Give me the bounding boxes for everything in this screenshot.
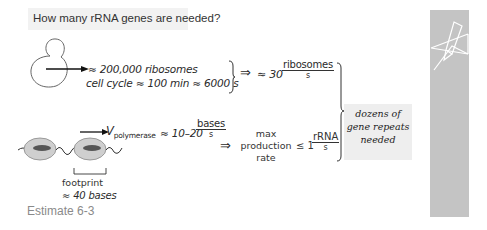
implies-arrow-2: ⇒ <box>220 138 231 153</box>
fraction-denominator: s <box>312 143 339 152</box>
max-label-line-2: production <box>238 140 294 152</box>
implies-arrow-1: ⇒ <box>240 65 251 80</box>
question-text: How many rRNA genes are needed? <box>33 12 220 24</box>
max-label-line-3: rate <box>238 152 294 164</box>
footprint-label: footprint <box>62 177 103 188</box>
v-symbol: V <box>106 124 114 138</box>
v-subscript: polymerase <box>114 131 156 140</box>
fraction-numerator: ribosomes <box>282 60 334 71</box>
right-brace-small-icon <box>228 60 236 94</box>
fraction-denominator: s <box>282 71 334 80</box>
conclusion-line-2: gene repeats <box>344 120 412 133</box>
polymerase-velocity-label: Vpolymerase <box>106 124 156 140</box>
conclusion-line-1: dozens of <box>344 107 412 120</box>
production-rate-unit: rRNAs <box>312 131 339 152</box>
fraction-numerator: bases <box>196 119 226 130</box>
ribosome-rate-unit: ribosomess <box>282 60 334 80</box>
footprint-bracket-icon <box>73 168 107 176</box>
ribosome-rate-value: ≈ 30 <box>257 68 283 81</box>
figure-caption: Estimate 6-3 <box>27 204 94 218</box>
max-label-line-1: max <box>238 128 294 140</box>
footprint-size: ≈ 40 bases <box>62 190 117 201</box>
yeast-cell-icon <box>26 36 90 94</box>
ribosome-count: ≈ 200,000 ribosomes <box>88 63 197 75</box>
conclusion-line-3: needed <box>344 133 412 146</box>
cell-cycle-time: cell cycle ≈ 100 min ≈ 6000 s <box>86 77 238 89</box>
conclusion-text: dozens of gene repeats needed <box>344 107 412 146</box>
pencil-and-paper-icon <box>430 14 470 76</box>
fraction-numerator: rRNA <box>312 132 339 143</box>
max-production-rate-label: max production rate <box>238 128 294 164</box>
polymerase-speed-unit: basess <box>196 119 226 139</box>
